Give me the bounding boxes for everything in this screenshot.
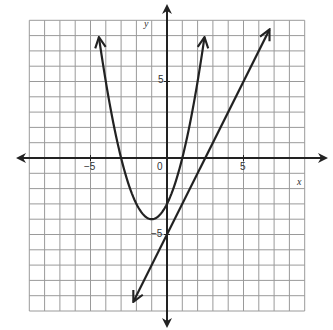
- x-tick-label-neg5: −5: [84, 161, 95, 172]
- linear-function-line: [133, 29, 269, 301]
- coordinate-plane: [0, 0, 333, 330]
- x-tick-label-5: 5: [240, 161, 246, 172]
- origin-label: 0: [157, 161, 163, 172]
- y-tick-label-neg5: −5: [151, 228, 162, 239]
- x-axis-label: x: [297, 176, 301, 187]
- y-tick-label-5: 5: [158, 74, 164, 85]
- y-axis-label: y: [144, 18, 148, 29]
